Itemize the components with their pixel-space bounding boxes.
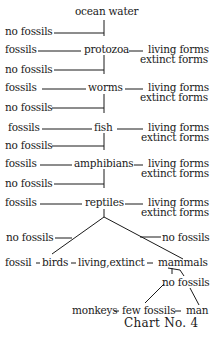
root-ocean-water: ocean water [75, 6, 138, 17]
extinct-forms-label: extinct forms [140, 54, 208, 65]
chart-caption: Chart No. 4 [124, 318, 199, 329]
node-amphibians: amphibians [74, 158, 134, 169]
node-birds: birds [42, 257, 68, 268]
node-worms: worms [88, 82, 123, 93]
fossils-label: fossils [8, 122, 40, 133]
mammals-branch-no-fossils: no fossils [162, 232, 210, 243]
node-protozoa: protozoa [84, 44, 129, 55]
no-fossils-label: no fossils [5, 178, 53, 189]
extinct-forms-label: extinct forms [141, 168, 209, 179]
fossils-label: fossils [5, 82, 37, 93]
fossils-label: fossils [5, 158, 37, 169]
mammals-no-fossils: no fossils [162, 277, 210, 288]
birds-status-label: living,extinct [78, 257, 145, 268]
node-reptiles: reptiles [85, 197, 124, 208]
fossils-label: fossils [5, 44, 37, 55]
no-fossils-label: no fossils [5, 26, 53, 37]
fossils-label: fossils [5, 197, 37, 208]
extinct-forms-label: extinct forms [141, 207, 209, 218]
no-fossils-label: no fossils [5, 140, 53, 151]
no-fossils-label: no fossils [5, 102, 53, 113]
few-fossils-label: few fossils [122, 305, 175, 316]
node-man: man [186, 305, 208, 316]
birds-fossil-label: fossil [5, 257, 32, 268]
extinct-forms-label: extinct forms [140, 92, 208, 103]
extinct-forms-label: extinct forms [141, 132, 209, 143]
birds-branch-no-fossils: no fossils [6, 232, 54, 243]
node-mammals: mammals [158, 257, 208, 268]
node-fish: fish [94, 122, 113, 133]
node-monkeys: monkeys [72, 305, 118, 316]
no-fossils-label: no fossils [5, 64, 53, 75]
